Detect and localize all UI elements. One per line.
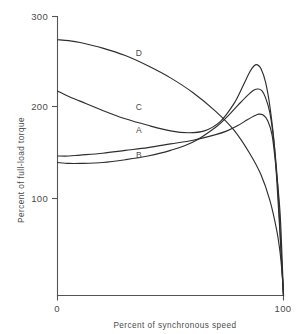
curve-series-A xyxy=(58,114,284,295)
curve-label-C: C xyxy=(136,102,142,112)
y-tick-label-300: 300 xyxy=(31,11,48,22)
curve-series-B xyxy=(58,89,284,296)
torque-speed-chart: 300 200 100 0 100 Percent of full-load t… xyxy=(0,0,307,334)
y-axis-title: Percent of full-load torque xyxy=(17,117,26,223)
x-axis-title: Percent of synchronous speed xyxy=(113,321,236,330)
x-axis-ticks xyxy=(58,296,284,301)
chart-axes xyxy=(58,17,284,296)
curve-series-D xyxy=(58,40,284,296)
curve-label-B: B xyxy=(136,150,142,160)
x-tick-label-0: 0 xyxy=(54,303,60,314)
curve-label-D: D xyxy=(136,48,142,58)
curve-label-A: A xyxy=(136,125,142,135)
x-tick-label-100: 100 xyxy=(275,303,292,314)
chart-series-group xyxy=(58,40,284,296)
curve-series-C xyxy=(58,65,284,296)
curve-annotations: D C A B xyxy=(136,48,142,160)
y-tick-label-100: 100 xyxy=(31,193,48,204)
chart-figure: 300 200 100 0 100 Percent of full-load t… xyxy=(0,0,307,334)
y-tick-label-200: 200 xyxy=(31,101,48,112)
y-axis-ticks xyxy=(52,17,58,199)
